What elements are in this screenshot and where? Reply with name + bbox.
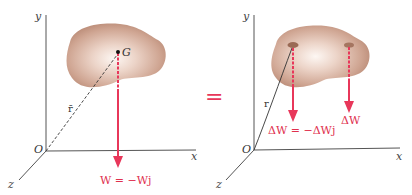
mass-element-left bbox=[288, 42, 299, 48]
y-axis-label: y bbox=[242, 10, 250, 23]
delta-w-label-left: ΔW = −ΔWj bbox=[268, 124, 335, 137]
r-label: r bbox=[264, 98, 269, 109]
center-of-gravity-point bbox=[116, 50, 120, 54]
r-bar-label: r̄ bbox=[68, 103, 73, 114]
left-figure: y x z O G r̄ W = −Wj bbox=[7, 10, 198, 191]
weight-label: W = −Wj bbox=[100, 174, 151, 187]
equals-sign: = bbox=[205, 84, 223, 109]
origin-label: O bbox=[34, 143, 43, 156]
x-axis-label: x bbox=[396, 150, 403, 163]
delta-w-arrow-right-head bbox=[344, 101, 354, 113]
rigid-body-shape bbox=[67, 24, 166, 88]
z-axis-label: z bbox=[7, 178, 14, 191]
right-figure: y x z O r ΔW = −ΔWj ΔW bbox=[215, 10, 403, 191]
x-axis bbox=[46, 150, 196, 151]
g-label: G bbox=[122, 46, 131, 59]
delta-w-label-right: ΔW bbox=[341, 114, 361, 127]
x-axis-label: x bbox=[191, 150, 198, 163]
center-of-gravity-diagram: y x z O G r̄ W = −Wj = bbox=[0, 0, 412, 195]
rigid-body-shape-discretized bbox=[271, 26, 369, 88]
z-axis-label: z bbox=[215, 178, 222, 191]
weight-arrow-head bbox=[113, 156, 123, 168]
x-axis bbox=[254, 148, 400, 150]
mass-element-right bbox=[344, 42, 354, 47]
delta-w-arrow-left-head bbox=[288, 110, 298, 122]
y-axis-label: y bbox=[34, 10, 42, 23]
origin-label: O bbox=[242, 143, 251, 156]
